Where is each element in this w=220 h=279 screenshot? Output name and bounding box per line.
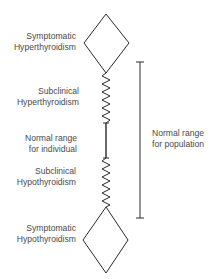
label-line1: Subclinical [17,166,76,177]
label-normal-range-individual: Normal range for individual [25,133,77,155]
zigzag-subclinical-hyperthyroidism [102,73,110,123]
label-line1: Subclinical [17,86,79,97]
label-line1: Normal range [25,133,77,144]
diamond-symptomatic-hypothyroidism [83,207,128,273]
label-symptomatic-hyperthyroidism: Symptomatic Hyperthyroidism [14,31,76,53]
label-symptomatic-hypothyroidism: Symptomatic Hypothyroidism [17,223,76,245]
label-line2: for population [152,139,204,150]
label-line1: Normal range [152,128,204,139]
label-line2: Hypothyroidism [17,177,76,188]
label-normal-range-population: Normal range for population [152,128,204,150]
zigzag-subclinical-hypothyroidism [102,158,110,207]
label-subclinical-hypothyroidism: Subclinical Hypothyroidism [17,166,76,188]
label-line1: Symptomatic [14,31,76,42]
label-line2: for individual [25,144,77,155]
label-line1: Symptomatic [17,223,76,234]
label-line2: Hypothyroidism [17,234,76,245]
diamond-symptomatic-hyperthyroidism [84,14,129,73]
label-subclinical-hyperthyroidism: Subclinical Hyperthyroidism [17,86,79,108]
label-line2: Hyperthyroidism [14,42,76,53]
label-line2: Hyperthyroidism [17,97,79,108]
